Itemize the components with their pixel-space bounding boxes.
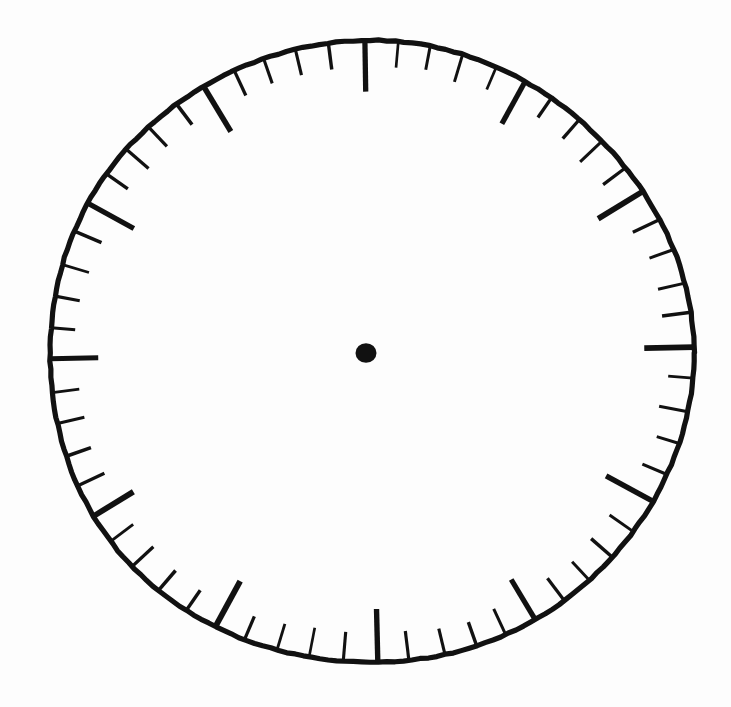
hour-tick-11 [204,86,231,131]
minute-tick-6 [538,98,551,117]
minute-tick-2 [426,46,431,70]
minute-tick-42 [66,448,91,457]
minute-tick-33 [277,624,285,650]
minute-tick-58 [295,50,301,76]
hour-tick-3 [644,347,694,348]
minute-tick-44 [52,389,79,392]
minute-tick-11 [633,219,660,232]
minute-tick-4 [487,67,497,89]
minute-tick-56 [234,71,246,96]
minute-tick-36 [186,590,200,610]
minute-tick-54 [177,104,192,125]
minute-tick-57 [264,59,273,84]
worksheet-canvas [0,0,731,707]
minute-tick-26 [494,609,506,635]
hour-tick-5 [511,580,535,620]
minute-tick-7 [563,120,579,139]
minute-tick-34 [245,616,255,639]
hour-tick-10 [88,203,134,228]
minute-tick-22 [591,539,612,558]
minute-tick-38 [132,547,153,567]
minute-tick-23 [572,562,589,580]
minute-tick-31 [343,632,345,661]
minute-tick-41 [78,473,105,486]
minute-tick-9 [603,168,625,185]
minute-tick-43 [57,417,84,423]
minute-tick-49 [74,231,101,243]
hour-tick-12 [365,40,366,91]
minute-tick-12 [650,250,674,259]
minute-tick-46 [51,328,75,330]
minute-tick-51 [106,174,127,189]
center-hub-group [356,343,377,363]
center-pivot-dot [356,343,377,363]
hour-tick-2 [598,191,643,218]
hour-tick-8 [94,492,134,516]
hour-tick-9 [50,358,98,359]
clock-face-diagram [0,0,731,707]
minute-tick-1 [396,42,398,68]
hour-tick-6 [377,609,378,662]
minute-tick-48 [62,265,88,273]
minute-tick-39 [111,524,134,541]
minute-tick-13 [658,283,685,289]
minute-tick-19 [642,464,667,474]
minute-tick-29 [405,631,409,660]
minute-tick-8 [580,141,602,162]
minute-tick-53 [148,127,166,147]
minute-tick-17 [659,406,688,412]
minute-tick-37 [158,571,175,591]
minute-tick-59 [328,43,331,69]
minute-tick-24 [547,578,564,600]
hour-tick-4 [606,476,653,502]
minute-tick-28 [439,629,445,655]
minute-tick-18 [657,437,680,444]
minute-tick-21 [610,515,634,532]
minute-tick-32 [309,628,315,657]
minute-tick-16 [668,376,693,378]
minute-tick-3 [454,54,462,82]
minute-tick-47 [55,296,80,301]
minute-tick-52 [126,149,148,168]
hour-tick-1 [502,82,525,124]
minute-tick-27 [468,622,476,646]
hour-tick-7 [215,581,240,627]
minute-tick-14 [662,312,691,316]
